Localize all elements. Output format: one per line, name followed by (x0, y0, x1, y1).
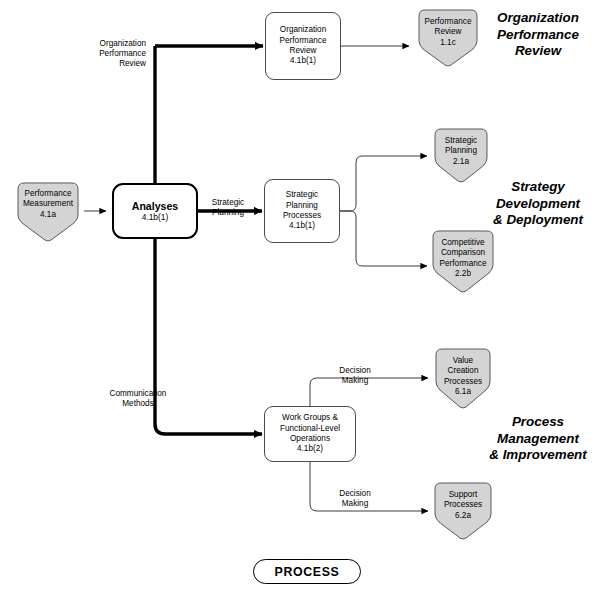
section-heading-process-management-improvement: Process Management & Improvement (483, 414, 593, 464)
connector-spp-to-strategic-planning (340, 156, 427, 211)
label-strategic-planning-flow: Strategic Planning (201, 198, 255, 218)
box-organization-performance-review[interactable]: Organization Performance Review 4.1b(1) (265, 12, 341, 80)
box-analyses[interactable]: Analyses 4.1b(1) (112, 183, 198, 239)
node-value-creation-processes[interactable]: Value Creation Processes 6.1a (432, 348, 494, 412)
legend-process-label: PROCESS (275, 565, 340, 579)
box-title: Strategic Planning Processes (283, 190, 321, 221)
connector-spp-to-competitive-comparison (340, 211, 427, 266)
node-code: 4.1a (12, 210, 84, 220)
label-decision-making-flow-lower: Decision Making (328, 489, 382, 509)
process-flow-diagram: Performance Measurement 4.1a Performance… (0, 0, 595, 599)
node-performance-review[interactable]: Performance Review 1.1c (414, 9, 482, 69)
node-code: 6.2a (431, 511, 495, 521)
node-performance-measurement[interactable]: Performance Measurement 4.1a (12, 182, 84, 244)
node-label: Performance Measurement (12, 189, 84, 210)
section-heading-organization-performance-review: Organization Performance Review (486, 10, 590, 60)
node-code: 6.1a (432, 387, 494, 397)
node-label: Support Processes (431, 490, 495, 511)
node-label: Value Creation Processes (432, 356, 494, 387)
box-strategic-planning-processes[interactable]: Strategic Planning Processes 4.1b(1) (264, 179, 340, 243)
section-heading-strategy-development-deployment: Strategy Development & Deployment (483, 179, 593, 229)
connector-layer (0, 0, 595, 599)
node-code: 2.2b (428, 269, 498, 279)
legend-process-pill[interactable]: PROCESS (253, 559, 361, 584)
box-code: 4.1b(1) (289, 221, 315, 231)
node-support-processes[interactable]: Support Processes 6.2a (431, 482, 495, 542)
box-title: Analyses (132, 200, 179, 212)
node-label: Strategic Planning (431, 136, 491, 157)
node-strategic-planning[interactable]: Strategic Planning 2.1a (431, 128, 491, 185)
box-code: 4.1b(1) (290, 56, 316, 66)
box-title: Organization Performance Review (280, 25, 327, 56)
label-organization-performance-review-flow: Organization Performance Review (58, 39, 146, 70)
label-decision-making-flow-upper: Decision Making (328, 366, 382, 386)
box-code: 4.1b(1) (142, 212, 169, 223)
box-work-groups-functional-level-operations[interactable]: Work Groups & Functional-Level Operation… (264, 406, 356, 462)
node-competitive-comparison-performance[interactable]: Competitive Comparison Performance 2.2b (428, 230, 498, 296)
node-code: 1.1c (414, 38, 482, 48)
node-label: Performance Review (414, 17, 482, 38)
box-title: Work Groups & Functional-Level Operation… (280, 413, 340, 444)
node-code: 2.1a (431, 157, 491, 167)
node-label: Competitive Comparison Performance (428, 238, 498, 269)
label-communication-methods-flow: Communication Methods (88, 389, 188, 409)
box-code: 4.1b(2) (297, 444, 323, 454)
